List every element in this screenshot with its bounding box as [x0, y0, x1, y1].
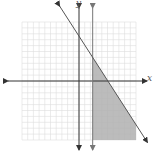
inequality-graph — [0, 0, 155, 157]
x-axis-label: x — [147, 73, 152, 83]
y-axis-label: y — [76, 0, 81, 8]
